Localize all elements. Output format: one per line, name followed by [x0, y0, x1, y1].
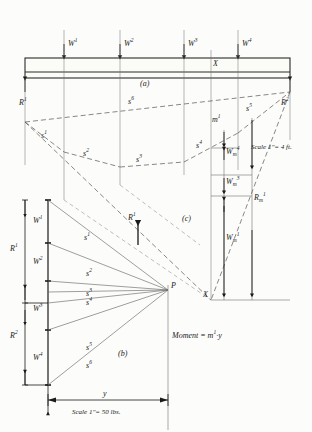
label-section-x-beam: X [213, 60, 218, 68]
label-force-r2: R2 [10, 330, 18, 340]
label-pole-p: P [171, 282, 176, 290]
label-ray-s4: s4 [86, 297, 92, 307]
diagram-vectors [0, 0, 312, 432]
label-reaction-r2-beam: R2 [281, 97, 289, 107]
label-load-w1: W1 [68, 38, 77, 48]
label-w4m: Wm4 [226, 146, 239, 158]
label-scale-feet: Scale 1"= 4 ft. [251, 144, 292, 151]
label-force-r1: R1 [10, 243, 18, 253]
label-string-s5: s5 [246, 103, 252, 113]
caption-panel-c: (c) [182, 215, 191, 223]
label-ray-s1: s1 [84, 232, 90, 242]
load-arrows-beam [64, 44, 238, 58]
label-mid-reaction-r1: R1 [128, 212, 136, 222]
caption-panel-b: (b) [118, 350, 127, 358]
label-string-s2: s2 [83, 148, 89, 158]
label-moment-equation: Moment = m1·y [172, 330, 222, 340]
label-ray-s2: s2 [86, 268, 92, 278]
label-r1m: Rm1 [254, 192, 266, 204]
label-string-s3: s3 [136, 154, 142, 164]
label-load-w4: W4 [242, 38, 251, 48]
label-force-w4: W4 [33, 352, 42, 362]
label-ray-s6: s6 [86, 360, 92, 370]
label-w1m: Wm1 [226, 232, 239, 244]
label-ray-s5: s5 [86, 342, 92, 352]
label-load-w3: W3 [188, 38, 197, 48]
label-y-dimension: y [103, 390, 107, 398]
label-ordinate-m-prime: m1 [212, 114, 221, 124]
label-string-s1: s1 [41, 130, 47, 140]
label-string-s6: s6 [128, 96, 134, 106]
label-load-w2: W2 [124, 38, 133, 48]
reaction-arrows-beam [25, 78, 290, 92]
beam-outline [25, 58, 290, 78]
caption-panel-a: (a) [140, 80, 149, 88]
label-force-w3: W3 [33, 303, 42, 313]
label-reaction-r1-beam: R1 [19, 97, 27, 107]
pole-rays [48, 200, 168, 385]
label-scale-lbs: Scale 1"= 50 lbs. [72, 409, 121, 416]
label-string-s4: s4 [196, 140, 202, 150]
figure-canvas: W1 W2 W3 W4 X (a) R1 R2 s6 s1 s2 s3 s4 s… [0, 0, 312, 432]
label-w3m: Wm3 [226, 176, 239, 188]
label-force-w1: W1 [33, 215, 42, 225]
label-section-x-panel-c: X [203, 291, 208, 299]
label-force-w2: W2 [33, 256, 42, 266]
